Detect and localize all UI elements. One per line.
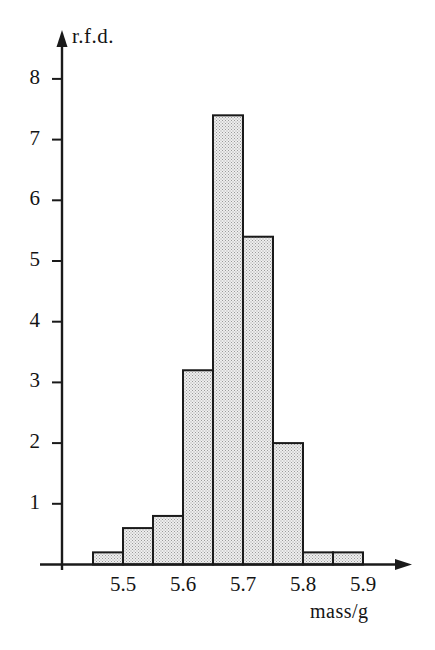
x-axis-tick-label: 5.7 bbox=[213, 572, 273, 597]
x-axis-tick-label: 5.5 bbox=[93, 572, 153, 597]
histogram-bar bbox=[153, 516, 183, 565]
y-axis-tick-label: 5 bbox=[20, 247, 40, 272]
y-axis-tick-label: 2 bbox=[20, 429, 40, 454]
y-axis-title: r.f.d. bbox=[72, 24, 114, 49]
histogram-bar bbox=[303, 552, 333, 564]
x-axis-arrowhead bbox=[395, 559, 412, 570]
y-axis-tick-label: 8 bbox=[20, 65, 40, 90]
chart-canvas bbox=[0, 0, 435, 650]
x-axis-tick-label: 5.9 bbox=[333, 572, 393, 597]
x-axis-tick-label: 5.8 bbox=[273, 572, 333, 597]
histogram-bar bbox=[183, 370, 213, 564]
y-axis-tick-label: 3 bbox=[20, 368, 40, 393]
histogram-bar bbox=[213, 115, 243, 564]
y-axis-tick-label: 4 bbox=[20, 308, 40, 333]
y-axis-ticks bbox=[52, 79, 62, 504]
histogram-bar bbox=[93, 552, 123, 564]
histogram-bar bbox=[123, 528, 153, 564]
histogram-bar bbox=[333, 552, 363, 564]
y-axis-tick-label: 1 bbox=[20, 490, 40, 515]
y-axis-tick-label: 7 bbox=[20, 126, 40, 151]
y-axis-tick-label: 6 bbox=[20, 186, 40, 211]
y-axis-arrowhead bbox=[57, 30, 68, 47]
x-axis-tick-label: 5.6 bbox=[153, 572, 213, 597]
histogram-bar bbox=[273, 443, 303, 564]
x-axis-title: mass/g bbox=[310, 600, 369, 623]
histogram-chart: r.f.d. mass/g 12345678 5.55.65.75.85.9 bbox=[0, 0, 435, 650]
histogram-bar bbox=[243, 237, 273, 565]
bars-group bbox=[93, 115, 363, 564]
